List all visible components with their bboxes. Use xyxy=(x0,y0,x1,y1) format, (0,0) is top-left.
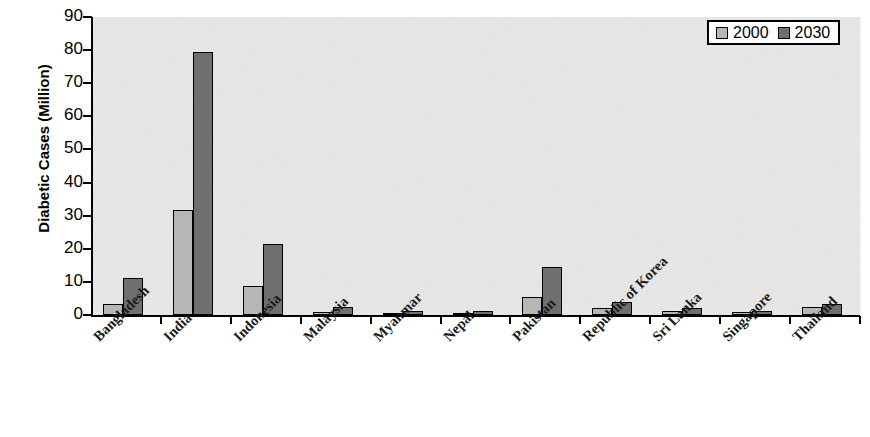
legend-label-2030: 2030 xyxy=(795,24,831,42)
x-axis-tick xyxy=(719,316,721,324)
y-axis-tick-label: 20 xyxy=(23,238,83,258)
bar-india-2030 xyxy=(193,52,213,315)
x-axis-tick xyxy=(789,316,791,324)
y-axis-tick-label: 60 xyxy=(23,105,83,125)
chart-legend: 2000 2030 xyxy=(707,20,840,45)
y-axis-tick-label: 40 xyxy=(23,172,83,192)
y-axis-tick xyxy=(83,148,92,150)
y-axis-tick-label: 50 xyxy=(23,138,83,158)
legend-swatch-2000-icon xyxy=(716,27,728,39)
x-axis-tick xyxy=(579,316,581,324)
y-axis-tick-label: 30 xyxy=(23,205,83,225)
x-axis-tick xyxy=(509,316,511,324)
y-axis-tick xyxy=(83,115,92,117)
y-axis-tick xyxy=(83,16,92,18)
legend-swatch-2030-icon xyxy=(778,27,790,39)
x-axis-tick xyxy=(440,316,442,324)
x-axis-tick xyxy=(859,316,861,324)
x-axis-tick xyxy=(160,316,162,324)
y-axis-tick xyxy=(83,215,92,217)
legend-label-2000: 2000 xyxy=(733,24,769,42)
x-axis-tick xyxy=(230,316,232,324)
y-axis-tick-label: 10 xyxy=(23,271,83,291)
y-axis-tick-label: 90 xyxy=(23,6,83,26)
y-axis-tick xyxy=(83,182,92,184)
bar-chart: Diabetic Cases (Million) 010203040506070… xyxy=(0,0,870,437)
bar-india-2000 xyxy=(173,210,193,315)
x-axis-tick xyxy=(370,316,372,324)
y-axis-tick-label: 80 xyxy=(23,39,83,59)
y-axis-tick xyxy=(83,248,92,250)
y-axis-tick xyxy=(83,314,92,316)
y-axis-tick-label: 0 xyxy=(23,304,83,324)
x-axis-tick xyxy=(649,316,651,324)
x-axis-tick xyxy=(300,316,302,324)
y-axis-tick-label: 70 xyxy=(23,72,83,92)
legend-item-2030: 2030 xyxy=(778,24,831,42)
bar-nepal-2030 xyxy=(473,311,493,315)
y-axis-tick xyxy=(83,281,92,283)
y-axis-tick xyxy=(83,82,92,84)
legend-item-2000: 2000 xyxy=(716,24,769,42)
y-axis-tick xyxy=(83,49,92,51)
